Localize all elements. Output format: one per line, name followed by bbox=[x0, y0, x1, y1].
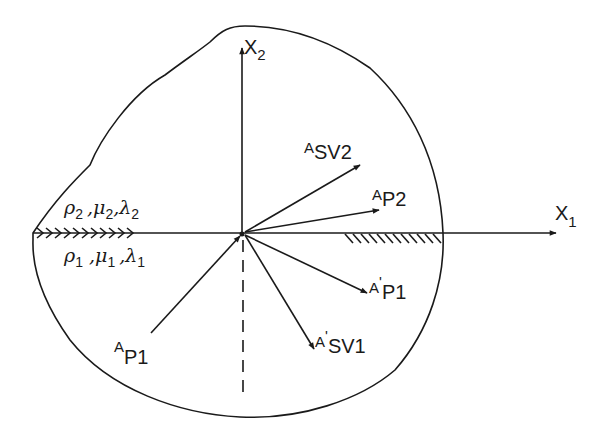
interface-hatching-right bbox=[345, 234, 441, 243]
x1-axis-label: X1 bbox=[555, 202, 577, 230]
label-a-p1: AP1 bbox=[114, 338, 148, 368]
medium-1-properties: ρ1,μ1,λ1 bbox=[63, 244, 145, 270]
origin-point bbox=[240, 232, 245, 237]
label-a-prime-p1: A'P1 bbox=[369, 273, 406, 303]
label-a-p2: AP2 bbox=[372, 186, 406, 210]
x2-axis-label: X2 bbox=[244, 36, 266, 63]
wave-interface-diagram: X2 X1 ρ2,μ2,λ2 ρ1,μ1,λ1 ASV2 AP2 A'P1 A'… bbox=[0, 0, 604, 436]
label-a-sv2: ASV2 bbox=[304, 139, 352, 163]
medium-2-properties: ρ2,μ2,λ2 bbox=[63, 196, 139, 222]
incident-p1-arrow bbox=[151, 236, 240, 333]
label-a-prime-sv1: A'SV1 bbox=[315, 327, 366, 357]
domain-boundary bbox=[33, 26, 443, 417]
